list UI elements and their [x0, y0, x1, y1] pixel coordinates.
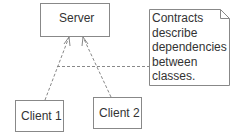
note-line: dependencies	[152, 40, 227, 55]
client1-label: Client 1	[21, 109, 62, 123]
server-class-box[interactable]: Server	[40, 3, 110, 37]
dependency-edge-client1-server	[45, 37, 69, 100]
note-line: classes.	[152, 69, 227, 84]
client1-class-box[interactable]: Client 1	[15, 100, 64, 132]
client2-class-box[interactable]: Client 2	[93, 97, 142, 129]
server-label: Server	[59, 11, 94, 25]
note-line: Contracts	[152, 11, 227, 26]
note-text: Contracts describe dependencies between …	[152, 11, 227, 84]
note-line: between	[152, 55, 227, 70]
note-line: describe	[152, 26, 227, 41]
client2-label: Client 2	[99, 106, 140, 120]
